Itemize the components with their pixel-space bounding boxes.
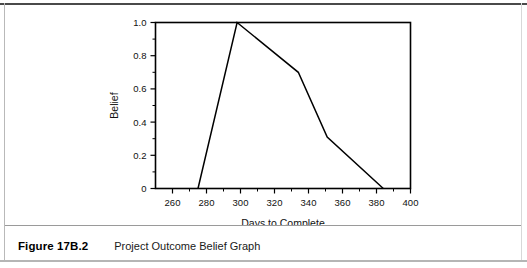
chart-svg: 26028030032034036038040000.20.40.60.81.0… [0, 0, 527, 225]
data-line-belief [198, 23, 383, 189]
x-axis-tick-label: 400 [403, 197, 419, 208]
x-axis-tick-label: 320 [267, 197, 283, 208]
y-axis-tick-label: 1.0 [133, 17, 146, 28]
plot-frame [156, 23, 411, 189]
x-axis-tick-label: 360 [335, 197, 351, 208]
y-axis-tick-label: 0.2 [133, 150, 146, 161]
x-axis-tick-label: 340 [301, 197, 317, 208]
x-axis-tick-label: 280 [199, 197, 215, 208]
figure-caption-text: Project Outcome Belief Graph [114, 240, 260, 252]
x-axis-title: Days to Complete [241, 217, 325, 226]
figure-bottom-border [0, 260, 527, 262]
y-axis-tick-label: 0.4 [133, 117, 146, 128]
x-axis-tick-label: 260 [165, 197, 181, 208]
y-axis-tick-label: 0.8 [133, 50, 146, 61]
caption-divider [5, 225, 521, 226]
figure-number-label: Figure 17B.2 [18, 240, 88, 252]
y-axis-title: Belief [108, 92, 120, 118]
figure-caption: Figure 17B.2 Project Outcome Belief Grap… [0, 232, 527, 260]
figure-container: 26028030032034036038040000.20.40.60.81.0… [0, 0, 527, 268]
y-axis-tick-label: 0 [141, 183, 146, 194]
y-axis-tick-label: 0.6 [133, 83, 146, 94]
x-axis-tick-label: 300 [233, 197, 249, 208]
belief-line-chart: 26028030032034036038040000.20.40.60.81.0… [0, 0, 527, 225]
x-axis-tick-label: 380 [369, 197, 385, 208]
